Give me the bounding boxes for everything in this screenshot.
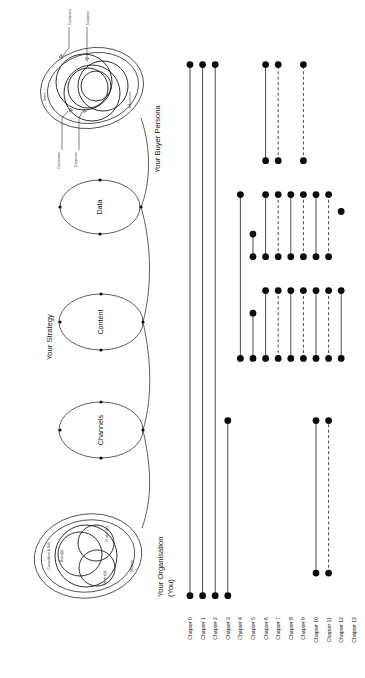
chapter-endpoint-dot[interactable] (262, 355, 269, 362)
persona-circle-inner (68, 68, 108, 108)
node-dot-data-right (139, 205, 142, 208)
chapter-endpoint-dot[interactable] (313, 287, 320, 294)
chapter-endpoint-dot[interactable] (287, 191, 294, 198)
strategy-group: Data Content Channels Your Strategy (45, 178, 145, 459)
chapter-endpoint-dot[interactable] (325, 355, 332, 362)
node-dot-data-left (58, 205, 61, 208)
chapter-axis-label: Chapter 7 (275, 617, 281, 640)
arrow-customers-plural (62, 27, 69, 57)
chapter-endpoint-dot[interactable] (212, 592, 219, 599)
chapter-endpoint-dot[interactable] (300, 287, 307, 294)
chapter-endpoint-dot[interactable] (313, 253, 320, 260)
chapter-endpoint-dot[interactable] (250, 231, 257, 238)
persona-arrow-label-consumers: Consumers (57, 152, 61, 169)
chapter-endpoint-dot[interactable] (338, 208, 345, 215)
chapter-endpoint-dot[interactable] (313, 355, 320, 362)
persona-arrow-label-customers: Customers (68, 9, 72, 25)
chapter-endpoint-dot[interactable] (250, 253, 257, 260)
node-dot-data-bottom (98, 232, 101, 235)
chapter-endpoint-dot[interactable] (250, 355, 257, 362)
chapter-axis-label: Chapter 5 (250, 617, 256, 640)
arrow-consumer (79, 112, 82, 150)
chapter-endpoint-dot[interactable] (325, 191, 332, 198)
arrowhead-customer (85, 58, 88, 61)
chapter-endpoint-dot[interactable] (262, 253, 269, 260)
chapter-axis-label: Chapter 4 (237, 617, 243, 640)
chapter-endpoint-dot[interactable] (338, 287, 345, 294)
connector-channels-org (142, 430, 150, 528)
chapter-endpoint-dot[interactable] (262, 191, 269, 198)
chapter-endpoint-dot[interactable] (313, 191, 320, 198)
chapter-endpoint-dot[interactable] (212, 61, 219, 68)
chapter-endpoint-dot[interactable] (275, 191, 282, 198)
org-ring-label-markets: Markets (130, 560, 134, 572)
chapter-endpoint-dot[interactable] (338, 355, 345, 362)
chapter-endpoint-dot[interactable] (300, 157, 307, 164)
chapter-endpoint-dot[interactable] (250, 310, 257, 317)
diagram-canvas: Customers Customer Consumers Consumer Us… (0, 0, 365, 678)
node-dot-channels-top (99, 400, 102, 403)
organisation-group: Competition & Self Brand(s) Product(s) S… (29, 507, 175, 605)
node-dot-content-right (141, 320, 144, 323)
chapter-endpoint-dot[interactable] (287, 355, 294, 362)
chapter-endpoint-dot[interactable] (262, 61, 269, 68)
chapter-endpoint-dot[interactable] (199, 61, 206, 68)
org-ring-label-competition-self: Competition & Self (47, 542, 51, 569)
chapter-endpoint-dot[interactable] (275, 253, 282, 260)
chapter-endpoint-dot[interactable] (287, 287, 294, 294)
persona-arrow-label-customer: Customer (86, 10, 90, 25)
chapter-endpoint-dot[interactable] (224, 417, 231, 424)
chapter-endpoint-dot[interactable] (237, 355, 244, 362)
connector-data-content (141, 207, 150, 322)
chapter-endpoint-dot[interactable] (325, 570, 332, 577)
chapter-axis-label: Chapter 0 (187, 617, 193, 640)
chapter-axis-label: Chapter 3 (225, 617, 231, 640)
chapter-axis-label: Chapter 6 (263, 617, 269, 640)
strategy-node-label-data: Data (95, 199, 104, 214)
chapter-label-column: Chapter 0Chapter 1Chapter 2Chapter 3Chap… (187, 617, 357, 643)
chapter-endpoint-dot[interactable] (325, 253, 332, 260)
org-circle-brands (58, 532, 102, 576)
org-ring-label-products: Product(s) (105, 526, 109, 541)
chapter-endpoint-dot[interactable] (325, 417, 332, 424)
chapter-endpoint-dot[interactable] (275, 61, 282, 68)
chapter-axis-label: Chapter 8 (288, 617, 294, 640)
chapter-endpoint-dot[interactable] (224, 592, 231, 599)
persona-ring-label-influencers: Influencers (128, 92, 132, 108)
node-dot-data-top (98, 178, 101, 181)
chapter-endpoint-dot[interactable] (275, 355, 282, 362)
chapter-endpoint-dot[interactable] (237, 191, 244, 198)
chapter-endpoint-dot[interactable] (300, 253, 307, 260)
chapter-endpoint-dot[interactable] (187, 592, 194, 599)
chapter-endpoint-dot[interactable] (313, 417, 320, 424)
arrowhead-customers-plural (59, 54, 62, 57)
chapter-axis-label: Chapter 10 (313, 617, 319, 643)
strategy-node-label-content: Content (96, 309, 105, 334)
node-dot-channels-right (141, 428, 144, 431)
node-dot-channels-left (58, 428, 61, 431)
arrow-consumers-plural (62, 111, 68, 150)
org-ring-label-services: Service(s) (103, 571, 107, 586)
chapter-axis-label: Chapter 1 (200, 617, 206, 640)
chapter-axis-label: Chapter 12 (338, 617, 344, 643)
chapter-coverage-chart (187, 61, 345, 599)
connector-content-channels (143, 322, 150, 430)
chapter-endpoint-dot[interactable] (300, 61, 307, 68)
chapter-endpoint-dot[interactable] (313, 570, 320, 577)
chapter-endpoint-dot[interactable] (325, 287, 332, 294)
chapter-endpoint-dot[interactable] (300, 191, 307, 198)
connector-persona-data (141, 118, 149, 207)
chapter-endpoint-dot[interactable] (187, 61, 194, 68)
chapter-endpoint-dot[interactable] (300, 355, 307, 362)
chapter-endpoint-dot[interactable] (275, 157, 282, 164)
persona-arrow-label-consumer: Consumer (74, 151, 78, 167)
persona-ring-label-users: Users (43, 92, 47, 101)
chapter-endpoint-dot[interactable] (275, 287, 282, 294)
chapter-endpoint-dot[interactable] (262, 287, 269, 294)
chapter-endpoint-dot[interactable] (199, 592, 206, 599)
chapter-endpoint-dot[interactable] (262, 157, 269, 164)
section-label-organisation-line2: (You) (166, 579, 175, 597)
node-dot-channels-bottom (99, 456, 102, 459)
section-label-organisation-line1: Your Organisation (156, 536, 165, 597)
chapter-endpoint-dot[interactable] (287, 253, 294, 260)
